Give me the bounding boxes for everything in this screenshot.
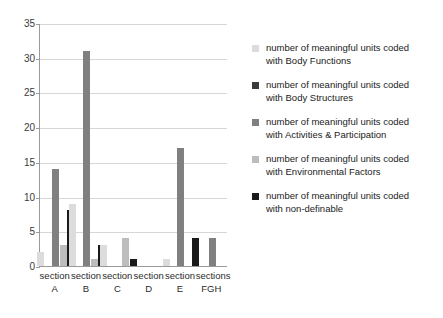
legend-item: number of meaningful units coded with no… — [252, 190, 438, 215]
bar-group — [197, 24, 228, 266]
bar-group — [165, 24, 196, 266]
x-axis-tick-label: sectionA — [39, 270, 70, 295]
bar — [100, 245, 107, 266]
x-axis-tick-label: sectionC — [102, 270, 133, 295]
x-axis-tick-labels: sectionAsectionBsectionCsectionDsectionE… — [39, 270, 227, 312]
y-axis-tick-label: 30 — [5, 54, 35, 64]
bar-group — [71, 24, 102, 266]
legend-label: number of meaningful units coded with Bo… — [266, 42, 428, 67]
chart-figure: 05101520253035 sectionAsectionBsectionCs… — [0, 0, 443, 318]
bar — [91, 259, 98, 266]
plot-area — [39, 24, 227, 267]
legend-item: number of meaningful units coded with Bo… — [252, 42, 438, 67]
legend-label: number of meaningful units coded with Bo… — [266, 79, 428, 104]
legend-label: number of meaningful units coded with no… — [266, 190, 428, 215]
bar-group — [134, 24, 165, 266]
bar — [209, 238, 216, 266]
chart-legend: number of meaningful units coded with Bo… — [252, 42, 438, 227]
x-axis-tick-label: sectionB — [70, 270, 101, 295]
x-axis-tick-label: sectionD — [133, 270, 164, 295]
bar — [69, 204, 76, 266]
bar — [52, 169, 59, 266]
legend-swatch-icon — [252, 82, 259, 89]
bar — [163, 259, 170, 266]
y-axis-tick-label: 35 — [5, 19, 35, 29]
y-axis-tick-label: 0 — [5, 262, 35, 272]
y-axis-tickmark — [36, 267, 40, 268]
y-axis-tick-label: 25 — [5, 88, 35, 98]
bar-group — [40, 24, 71, 266]
bar — [177, 148, 184, 266]
legend-label: number of meaningful units coded with En… — [266, 153, 428, 178]
x-axis-tick-label: sectionE — [164, 270, 195, 295]
legend-item: number of meaningful units coded with En… — [252, 153, 438, 178]
legend-swatch-icon — [252, 156, 259, 163]
bar — [60, 245, 67, 266]
plot-wrapper: 05101520253035 sectionAsectionBsectionCs… — [0, 0, 240, 318]
legend-item: number of meaningful units coded with Bo… — [252, 79, 438, 104]
y-axis-tick-label: 10 — [5, 193, 35, 203]
bar-group — [103, 24, 134, 266]
y-axis-tick-label: 20 — [5, 123, 35, 133]
legend-label: number of meaningful units coded with Ac… — [266, 116, 428, 141]
y-axis-tick-label: 5 — [5, 227, 35, 237]
legend-swatch-icon — [252, 45, 259, 52]
y-axis-tick-labels: 05101520253035 — [0, 24, 35, 267]
x-axis-tick-label: sectionsFGH — [196, 270, 227, 295]
bar — [83, 51, 90, 266]
legend-swatch-icon — [252, 193, 259, 200]
bar — [37, 252, 44, 266]
y-axis-tick-label: 15 — [5, 158, 35, 168]
bar — [122, 238, 129, 266]
legend-item: number of meaningful units coded with Ac… — [252, 116, 438, 141]
legend-swatch-icon — [252, 119, 259, 126]
